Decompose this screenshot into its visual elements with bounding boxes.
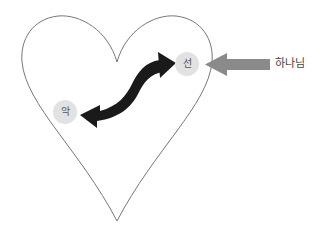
curved-double-arrow-icon — [80, 52, 176, 128]
gray-arrow-icon — [205, 53, 270, 76]
god-label: 하나님 — [275, 58, 305, 69]
evil-node-label: 악 — [53, 100, 77, 124]
diagram-canvas — [0, 0, 327, 238]
good-node-label: 선 — [175, 52, 199, 76]
heart-outline — [22, 16, 212, 221]
